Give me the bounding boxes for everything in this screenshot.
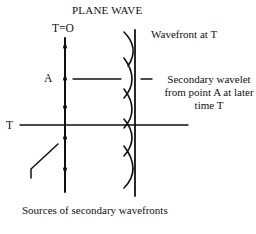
wavelet-arcs <box>124 32 133 188</box>
sources-leader-line <box>31 144 58 178</box>
source-point <box>63 167 67 171</box>
wave-diagram-graphic <box>0 0 256 234</box>
source-point-a <box>63 77 67 81</box>
source-point <box>63 105 67 109</box>
source-point <box>63 45 67 49</box>
source-point <box>63 136 67 140</box>
